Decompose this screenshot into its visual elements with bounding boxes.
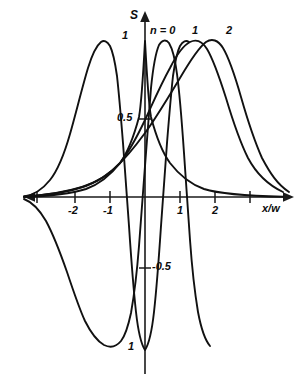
figure-container: S 1 0.5 -0.5 1 -2 -1 1 2 x/w n = 0 1 2 xyxy=(0,0,307,385)
y-tick-label-minus-1: 1 xyxy=(128,341,134,352)
x-tick-label-minus1: -1 xyxy=(103,205,113,216)
x-tick-label-2: 2 xyxy=(212,205,218,216)
y-axis-label: S xyxy=(130,9,138,21)
x-axis-right-arrowhead xyxy=(283,192,294,202)
x-axis-label: x/w xyxy=(262,203,280,214)
curves-group xyxy=(24,40,289,350)
y-axis-group xyxy=(139,11,151,374)
curve-label-n0: n = 0 xyxy=(150,25,175,36)
y-tick-label-1: 1 xyxy=(122,30,128,41)
plot-svg xyxy=(0,0,307,385)
curve-n2 xyxy=(24,40,289,197)
x-tick-label-minus2: -2 xyxy=(68,205,78,216)
y-tick-label-minus-half: -0.5 xyxy=(152,261,171,272)
x-tick-label-1: 1 xyxy=(177,205,183,216)
y-tick-label-half: 0.5 xyxy=(117,112,132,123)
curve-label-n2: 2 xyxy=(226,25,232,36)
curve-label-n1: 1 xyxy=(192,25,198,36)
y-axis-top-arrowhead xyxy=(140,11,150,22)
